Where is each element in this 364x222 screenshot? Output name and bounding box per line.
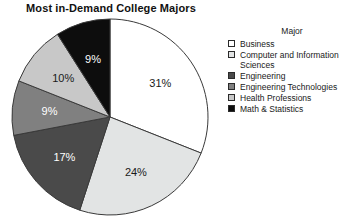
legend-item-label: Health Professions — [240, 93, 311, 103]
legend: Major BusinessComputer and Information S… — [228, 26, 364, 115]
legend-item-label: Computer and Information Sciences — [240, 50, 339, 70]
legend-swatch-icon — [228, 94, 235, 101]
pie-chart-figure: Most in-Demand College Majors 31%24%17%9… — [0, 0, 364, 222]
legend-item-label: Engineering — [240, 71, 285, 81]
legend-item[interactable]: Business — [228, 39, 364, 49]
legend-items: BusinessComputer and Information Science… — [228, 39, 364, 114]
pie-slice-value-label: 9% — [42, 105, 58, 117]
pie-plot-area: 31%24%17%9%10%9% — [0, 0, 224, 222]
legend-item[interactable]: Engineering — [228, 71, 364, 81]
legend-item[interactable]: Math & Statistics — [228, 104, 364, 114]
legend-item-label: Engineering Technologies — [240, 82, 337, 92]
legend-swatch-icon — [228, 83, 235, 90]
legend-swatch-icon — [228, 40, 235, 47]
legend-title: Major — [230, 26, 354, 36]
legend-item[interactable]: Engineering Technologies — [228, 82, 364, 92]
pie-svg: 31%24%17%9%10%9% — [0, 0, 224, 222]
legend-item-label: Math & Statistics — [240, 104, 303, 114]
legend-swatch-icon — [228, 51, 235, 58]
legend-item[interactable]: Health Professions — [228, 93, 364, 103]
legend-item[interactable]: Computer and Information Sciences — [228, 50, 364, 70]
pie-slice-value-label: 9% — [85, 53, 101, 65]
pie-slice-value-label: 24% — [125, 166, 147, 178]
legend-swatch-icon — [228, 72, 235, 79]
pie-slice-value-label: 31% — [149, 77, 171, 89]
pie-slice-value-label: 17% — [53, 151, 75, 163]
legend-item-label: Business — [240, 39, 275, 49]
pie-slice-value-label: 10% — [52, 72, 74, 84]
legend-swatch-icon — [228, 105, 235, 112]
